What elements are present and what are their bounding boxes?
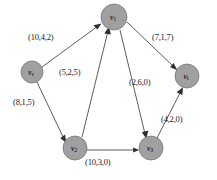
edge-line-v2-v1 bbox=[82, 31, 108, 137]
node-vt[interactable]: vt bbox=[175, 64, 199, 88]
edge-label-vs-v2: (8,1,5) bbox=[13, 97, 34, 107]
arrowhead-v2-v3 bbox=[133, 147, 139, 152]
edge-label-v2-v1: (5,2,5) bbox=[59, 67, 80, 77]
edge-vs-to-v2 bbox=[37, 82, 66, 143]
flow-network-diagram: v1 vs vt v2 v3 (10,4,2) (5,2,5) (8,1,5) … bbox=[0, 0, 217, 180]
edge-line-vs-v2 bbox=[37, 82, 64, 139]
edge-label-v2-v3: (10,3,0) bbox=[85, 157, 110, 167]
edge-vs-to-v1 bbox=[42, 23, 102, 67]
edge-label-v1-v3: (2,6,0) bbox=[129, 77, 150, 87]
edge-label-v3-vt: (4,2,0) bbox=[161, 114, 182, 124]
node-v3[interactable]: v3 bbox=[139, 136, 163, 160]
edge-v2-to-v1 bbox=[82, 27, 111, 137]
node-v2[interactable]: v2 bbox=[63, 136, 87, 160]
node-vs[interactable]: vs bbox=[21, 61, 43, 83]
edge-line-v1-vt bbox=[127, 22, 174, 67]
edge-v3-to-vt bbox=[157, 87, 183, 138]
edge-v2-to-v3 bbox=[87, 147, 139, 152]
edge-label-v1-vt: (7,1,7) bbox=[152, 32, 173, 42]
graph-canvas: v1 vs vt v2 v3 bbox=[0, 0, 217, 180]
edge-label-vs-v1: (10,4,2) bbox=[28, 32, 53, 42]
edge-v1-to-vt bbox=[127, 22, 177, 70]
node-v1[interactable]: v1 bbox=[101, 4, 127, 30]
